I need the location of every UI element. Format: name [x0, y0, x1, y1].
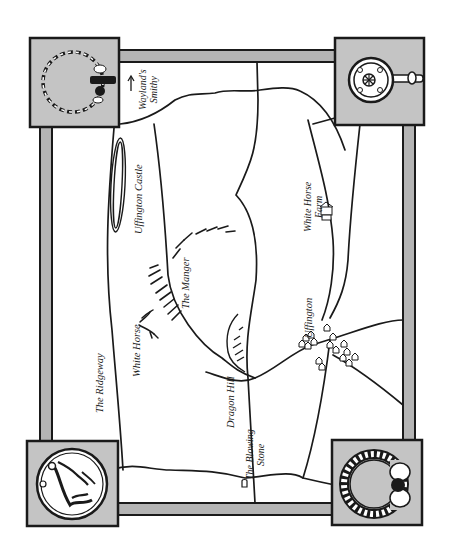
label-uffington-castle: Uffington Castle	[134, 164, 145, 234]
crescent-armlet-icon	[344, 454, 410, 514]
frame-top-bar	[115, 50, 340, 62]
label-waylands-smithy: Wayland's Smithy	[137, 69, 159, 110]
manger-road	[154, 124, 255, 378]
ridgeway-road	[108, 128, 123, 470]
corner-box-top-right	[335, 38, 424, 125]
label-dragon-hill: Dragon Hill	[226, 376, 237, 428]
label-the-ridgeway: The Ridgeway	[95, 353, 106, 413]
label-farm-line1: White Horse	[302, 182, 313, 232]
label-uffington: Uffington	[304, 298, 315, 338]
uffington-map: Wayland's Smithy Uffington Castle White …	[0, 0, 450, 559]
label-waylands-line2: Smithy	[148, 69, 159, 110]
manger-hatching	[149, 226, 235, 320]
label-blowing-stone: The Blowing Stone	[244, 429, 266, 480]
horse-coin-icon	[37, 449, 107, 519]
map-drawing	[0, 0, 450, 559]
southeast-road	[333, 355, 403, 405]
label-blowing-stone-line2: Stone	[255, 429, 266, 480]
corner-box-top-left	[30, 38, 119, 127]
label-farm-line2: Farm	[313, 182, 324, 232]
blowing-stone-icon	[242, 480, 247, 488]
frame-right-bar	[403, 122, 415, 444]
label-the-manger: The Manger	[181, 257, 192, 309]
frame-bottom-bar	[115, 503, 337, 515]
corner-box-bottom-right	[332, 440, 422, 525]
right-road	[330, 124, 360, 318]
corner-box-bottom-left	[27, 441, 118, 526]
waylands-arrow-icon	[128, 76, 134, 91]
label-white-horse: White Horse	[132, 324, 143, 377]
label-waylands-line1: Wayland's	[137, 69, 148, 110]
label-blowing-stone-line1: The Blowing	[244, 429, 255, 480]
label-white-horse-farm: White Horse Farm	[302, 182, 324, 232]
frame-left-bar	[40, 124, 52, 446]
